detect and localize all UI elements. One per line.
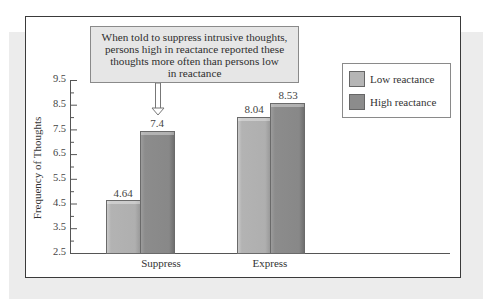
y-tick-label: 7.5: [42, 123, 66, 134]
callout-arrow-icon: [152, 83, 164, 115]
value-label: 8.53: [268, 89, 308, 101]
legend-label: High reactance: [370, 96, 436, 108]
bar-suppress-high: [140, 131, 175, 254]
bar-express-high: [270, 103, 305, 254]
y-tick-label: 9.5: [42, 73, 66, 84]
bar-express-low: [237, 117, 271, 254]
y-tick-label: 3.5: [42, 221, 66, 232]
annotation-line: in reactance: [91, 67, 298, 79]
bar-suppress-low: [106, 200, 141, 254]
value-label: 7.4: [137, 117, 177, 129]
y-tick-label: 6.5: [42, 147, 66, 158]
y-tick-label: 4.5: [42, 197, 66, 208]
value-label: 8.04: [234, 103, 274, 115]
legend-swatch-low: [349, 71, 365, 87]
y-tick-label: 5.5: [42, 172, 66, 183]
annotation-line: When told to suppress intrusive thoughts…: [91, 31, 298, 43]
legend-label: Low reactance: [370, 73, 434, 85]
x-tick-label-express: Express: [235, 257, 305, 269]
y-tick-label: 8.5: [42, 98, 66, 109]
annotation-line: thoughts more often than persons low: [91, 55, 298, 67]
y-tick-label: 2.5: [42, 246, 66, 257]
legend-item-high: High reactance: [349, 93, 436, 111]
legend-item-low: Low reactance: [349, 70, 434, 88]
legend-swatch-high: [349, 94, 365, 110]
value-label: 4.64: [103, 187, 143, 199]
y-axis-label: Frequency of Thoughts: [31, 108, 45, 228]
annotation-line: persons high in reactance reported these: [91, 43, 298, 55]
legend: Low reactance High reactance: [342, 63, 451, 118]
annotation-callout: When told to suppress intrusive thoughts…: [90, 26, 299, 83]
x-tick-label-suppress: Suppress: [126, 257, 196, 269]
